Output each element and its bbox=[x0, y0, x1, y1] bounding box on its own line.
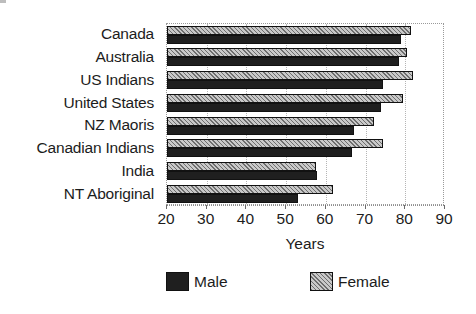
bar-female bbox=[167, 162, 316, 171]
bar-female bbox=[167, 71, 413, 80]
bar-female bbox=[167, 117, 374, 126]
category-label: NT Aboriginal bbox=[0, 186, 154, 201]
x-axis-tick-label: 20 bbox=[146, 210, 186, 228]
scan-edge-artifact bbox=[0, 0, 6, 3]
x-axis-tick bbox=[245, 205, 246, 209]
category-axis-labels: CanadaAustraliaUS IndiansUnited StatesNZ… bbox=[0, 23, 160, 205]
category-label: India bbox=[0, 163, 154, 178]
bar-male bbox=[167, 103, 381, 112]
bar-female bbox=[167, 26, 411, 35]
x-axis-tick-label: 90 bbox=[424, 210, 464, 228]
bar-male bbox=[167, 171, 317, 180]
category-label: US Indians bbox=[0, 72, 154, 87]
x-axis-tick-label: 70 bbox=[345, 210, 385, 228]
category-label: Australia bbox=[0, 49, 154, 64]
x-axis-tick-label: 60 bbox=[305, 210, 345, 228]
x-axis-title: Years bbox=[166, 235, 444, 253]
legend-label-male: Male bbox=[194, 273, 228, 291]
bar-female bbox=[167, 48, 407, 57]
bar-male bbox=[167, 126, 354, 135]
legend-label-female: Female bbox=[338, 273, 390, 291]
x-axis-tick bbox=[444, 205, 445, 209]
x-axis-tick bbox=[404, 205, 405, 209]
x-axis-tick-label: 80 bbox=[384, 210, 424, 228]
x-axis-tick-label: 40 bbox=[225, 210, 265, 228]
legend-item-male: Male bbox=[166, 272, 228, 291]
chart-legend: Male Female bbox=[166, 272, 444, 298]
bar-male bbox=[167, 194, 298, 203]
x-axis-tick bbox=[166, 205, 167, 209]
x-axis-tick bbox=[206, 205, 207, 209]
x-axis-tick-label: 30 bbox=[186, 210, 226, 228]
bar-female bbox=[167, 185, 333, 194]
legend-item-female: Female bbox=[310, 272, 390, 291]
x-axis-tick bbox=[365, 205, 366, 209]
bar-female bbox=[167, 139, 383, 148]
plot-area bbox=[166, 23, 444, 205]
category-label: Canada bbox=[0, 26, 154, 41]
x-axis-tick-label: 50 bbox=[265, 210, 305, 228]
category-label: Canadian Indians bbox=[0, 140, 154, 155]
bar-male bbox=[167, 148, 352, 157]
x-axis-tick bbox=[285, 205, 286, 209]
bar-male bbox=[167, 57, 399, 66]
x-axis-tick bbox=[325, 205, 326, 209]
male-swatch-icon bbox=[166, 272, 189, 291]
bar-female bbox=[167, 94, 403, 103]
x-axis-line bbox=[166, 205, 444, 206]
bar-male bbox=[167, 80, 383, 89]
life-expectancy-bar-chart: CanadaAustraliaUS IndiansUnited StatesNZ… bbox=[0, 0, 476, 314]
female-swatch-icon bbox=[310, 272, 333, 291]
category-label: United States bbox=[0, 95, 154, 110]
category-label: NZ Maoris bbox=[0, 117, 154, 132]
bar-male bbox=[167, 35, 401, 44]
